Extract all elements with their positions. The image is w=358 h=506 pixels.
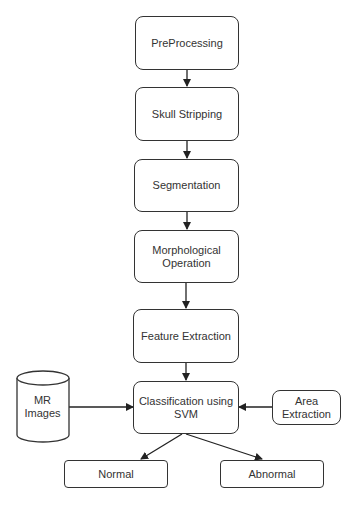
area-extraction-label-2: Extraction (282, 408, 331, 421)
segmentation-label: Segmentation (153, 179, 221, 192)
node-segmentation: Segmentation (134, 159, 239, 212)
node-morphological-operation: Morphological Operation (134, 230, 239, 283)
skull-stripping-label: Skull Stripping (152, 108, 222, 121)
morphological-label-1: Morphological (152, 244, 220, 257)
preprocessing-label: PreProcessing (151, 37, 223, 50)
node-abnormal: Abnormal (220, 460, 324, 488)
feature-extraction-label: Feature Extraction (141, 330, 231, 343)
node-mr-images: MR Images (16, 394, 69, 420)
node-preprocessing: PreProcessing (135, 16, 239, 70)
node-skull-stripping: Skull Stripping (135, 87, 239, 141)
normal-label: Normal (98, 468, 133, 481)
morphological-label-2: Operation (162, 257, 210, 270)
abnormal-label: Abnormal (248, 468, 295, 481)
mr-images-line1: MR (16, 394, 69, 407)
classification-label-2: SVM (174, 408, 198, 421)
arrow-class-to-abnormal (186, 434, 262, 459)
arrow-class-to-normal (141, 434, 182, 459)
mr-images-line2: Images (16, 407, 69, 420)
node-normal: Normal (64, 460, 168, 488)
classification-label-1: Classification using (139, 395, 233, 408)
node-classification-svm: Classification using SVM (133, 381, 239, 434)
node-feature-extraction: Feature Extraction (133, 309, 239, 363)
area-extraction-label-1: Area (295, 395, 318, 408)
node-area-extraction: Area Extraction (272, 390, 341, 425)
